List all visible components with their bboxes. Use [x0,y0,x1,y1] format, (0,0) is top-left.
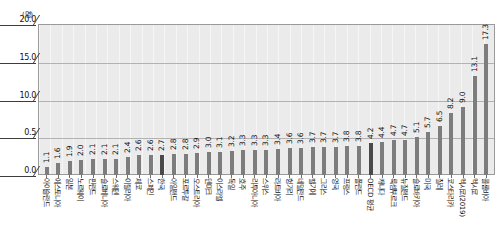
x-axis-category-label: 체코 [134,178,144,189]
x-axis-category-label: 캐나다 [377,178,387,195]
x-axis-category-label: 네덜란드 [296,178,306,201]
x-axis-category-label: 멕시코(2019) [458,178,468,217]
x-axis-label-slot[interactable]: 네덜란드 [295,176,307,244]
x-axis-label-slot[interactable]: 노르웨이 [76,176,88,244]
x-axis-category-label: 리투아니아 [250,178,260,207]
x-axis-label-slot[interactable]: OECD 평균 [365,176,377,244]
x-axis-label-slot[interactable]: 룩셈부르크 [388,176,400,244]
x-axis-label-slot[interactable]: 아일랜드 [168,176,180,244]
x-axis-label-slot[interactable]: 그리스 [319,176,331,244]
x-axis-label-slot[interactable]: 일본 [64,176,76,244]
x-axis-label-slot[interactable]: 이탈리아 [122,176,134,244]
bar-chart: (명) 20.015.010.00.50.0 1.11.61.92.02.12.… [0,0,503,245]
x-axis-label-slot[interactable]: 멕시코 [469,176,481,244]
x-axis-label-slot[interactable]: 슬로바키아 [411,176,423,244]
y-axis-tick-label: 0.0 [0,166,36,177]
x-axis-category-label: 미국 [423,178,433,189]
x-axis-category-label: 덴마크 [204,178,214,195]
x-axis-label-slot[interactable]: 포르투갈 [180,176,192,244]
x-axis-label-slot[interactable]: 스위스 [261,176,273,244]
x-axis-label-slot[interactable]: 폴란드 [353,176,365,244]
x-axis-category-label: 뉴질랜드 [400,178,410,201]
gridline [39,101,494,102]
x-axis-label-slot[interactable]: 스웨덴 [110,176,122,244]
x-axis-category-label: 오스트리아 [192,178,202,207]
x-axis-label-slot[interactable]: 오스트리아 [191,176,203,244]
x-axis-category-label: 콜롬비아 [481,178,491,201]
x-axis-label-slot[interactable]: 에스토니아 [53,176,65,244]
x-axis-label-slot[interactable]: 헝가리 [284,176,296,244]
x-axis-category-label: 프랑스 [342,178,352,195]
x-axis-category-label: 아일랜드 [169,178,179,201]
x-axis-label-slot[interactable]: 뉴질랜드 [399,176,411,244]
x-axis-category-label: 핀란드 [88,178,98,195]
x-axis-category-label: 스위스 [261,178,271,195]
x-axis-category-label: 헝가리 [285,178,295,195]
y-axis-tick-label: 20.0 [0,15,36,26]
x-axis-label-slot[interactable]: 캐나다 [376,176,388,244]
x-axis-category-label: 영국 [331,178,341,189]
x-axis-label-slot[interactable]: 체코 [134,176,146,244]
x-axis-label-slot[interactable]: 호주 [238,176,250,244]
x-axis-category-label: 멕시코 [470,178,480,195]
x-axis-label-slot[interactable]: 슬로베니아 [99,176,111,244]
gridline [39,63,494,64]
x-axis-category-label: 코스타리카 [446,178,456,207]
x-axis-label-slot[interactable]: 아이슬란드 [41,176,53,244]
x-axis-category-label: 호주 [238,178,248,189]
x-axis-category-label: 아이슬란드 [42,178,52,207]
x-axis-category-label: 이스라엘 [215,178,225,201]
x-axis-category-label: 슬로베니아 [100,178,110,207]
x-axis-label-slot[interactable]: 멕시코(2019) [457,176,469,244]
x-axis-category-label: 에스토니아 [53,178,63,207]
x-axis-category-label: 슬로바키아 [412,178,422,207]
x-axis-category-label: 룩셈부르크 [389,178,399,207]
x-axis-label-slot[interactable]: 독일 [226,176,238,244]
x-axis-category-label: 일본 [65,178,75,189]
x-axis-category-label: 폴란드 [354,178,364,195]
x-axis-labels: 아이슬란드에스토니아일본노르웨이핀란드슬로베니아스웨덴이탈리아체코스페인한국아일… [38,176,495,244]
x-axis-label-slot[interactable]: 코스타리카 [446,176,458,244]
x-axis-category-label: 스웨덴 [111,178,121,195]
x-axis-label-slot[interactable]: 콜롬비아 [480,176,492,244]
x-axis-label-slot[interactable]: 벨기에 [307,176,319,244]
x-axis-label-slot[interactable]: 미국 [423,176,435,244]
x-axis-label-slot[interactable]: 이스라엘 [214,176,226,244]
x-axis-label-slot[interactable]: 칠레 [434,176,446,244]
x-axis-label-slot[interactable]: 덴마크 [203,176,215,244]
gridline [39,138,494,139]
y-axis-tick-label: 0.5 [0,128,36,139]
plot-background-stripes [39,25,494,174]
x-axis-label-slot[interactable]: 영국 [330,176,342,244]
x-axis-label-slot[interactable]: 핀란드 [87,176,99,244]
x-axis-category-label: 이탈리아 [123,178,133,201]
y-axis-tick-label: 15.0 [0,53,36,64]
x-axis-label-slot[interactable]: 프랑스 [342,176,354,244]
plot-area [38,24,495,175]
x-axis-label-slot[interactable]: 스페인 [145,176,157,244]
x-axis-category-label: 노르웨이 [76,178,86,201]
x-axis-category-label: 포르투갈 [181,178,191,201]
x-axis-label-slot[interactable]: 한국 [157,176,169,244]
x-axis-label-slot[interactable]: 리투아니아 [249,176,261,244]
y-axis-tick-label: 10.0 [0,91,36,102]
x-axis-category-label: 그리스 [319,178,329,195]
x-axis-category-label: 스페인 [146,178,156,195]
x-axis-category-label: 칠레 [435,178,445,189]
x-axis-category-label: 한국 [157,178,167,189]
x-axis-category-label: 라트비아 [273,178,283,201]
x-axis-category-label: OECD 평균 [366,178,376,210]
x-axis-category-label: 독일 [227,178,237,189]
x-axis-label-slot[interactable]: 라트비아 [272,176,284,244]
x-axis-category-label: 벨기에 [308,178,318,195]
